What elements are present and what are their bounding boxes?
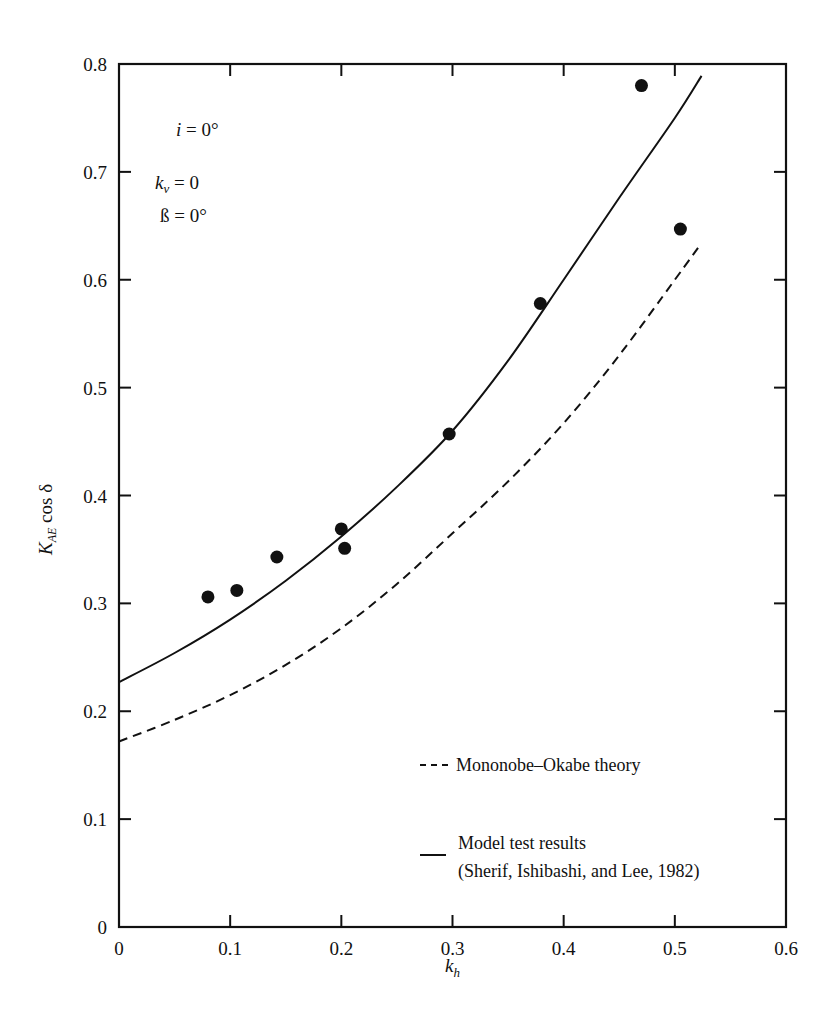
data-point xyxy=(270,550,283,563)
y-tick-label: 0.5 xyxy=(83,378,107,399)
parameter-annotations: i = 0° kv = 0 ß = 0° xyxy=(155,119,219,226)
plot-border xyxy=(119,64,786,927)
y-tick-label: 0.3 xyxy=(83,593,107,614)
x-tick-label: 0.4 xyxy=(552,938,576,959)
legend-solid-label-line2: (Sherif, Ishibashi, and Lee, 1982) xyxy=(458,861,699,882)
x-tick-label: 0.5 xyxy=(663,938,687,959)
legend: Mononobe–Okabe theory Model test results… xyxy=(420,755,699,882)
curves xyxy=(119,76,702,742)
x-tick-label: 0.6 xyxy=(774,938,798,959)
y-tick-label: 0.7 xyxy=(83,162,107,183)
y-tick-label: 0.8 xyxy=(83,54,107,75)
data-point xyxy=(335,522,348,535)
data-point xyxy=(635,79,648,92)
data-point xyxy=(443,428,456,441)
y-tick-label: 0.1 xyxy=(83,809,107,830)
legend-solid-label-line1: Model test results xyxy=(458,833,586,853)
y-tick-label: 0.2 xyxy=(83,701,107,722)
annotation-beta: ß = 0° xyxy=(160,205,207,226)
y-tick-label: 0.6 xyxy=(83,270,107,291)
annotation-i: i = 0° xyxy=(176,119,219,140)
chart-canvas: 00.10.20.30.40.50.600.10.20.30.40.50.60.… xyxy=(0,0,838,1023)
y-tick-label: 0.4 xyxy=(83,486,107,507)
mononobe-okabe-curve xyxy=(119,243,702,741)
y-axis-label: KAE cos δ xyxy=(35,484,59,556)
data-point xyxy=(230,584,243,597)
data-point xyxy=(201,590,214,603)
data-point xyxy=(338,542,351,555)
data-points xyxy=(201,79,686,603)
data-point xyxy=(674,223,687,236)
x-tick-label: 0 xyxy=(114,938,124,959)
x-tick-label: 0.2 xyxy=(329,938,353,959)
legend-dashed-label: Mononobe–Okabe theory xyxy=(456,755,640,775)
annotation-kv: kv = 0 xyxy=(155,172,199,196)
y-tick-label: 0 xyxy=(98,917,108,938)
plot-frame xyxy=(119,64,786,927)
data-point xyxy=(534,297,547,310)
x-tick-label: 0.1 xyxy=(218,938,242,959)
